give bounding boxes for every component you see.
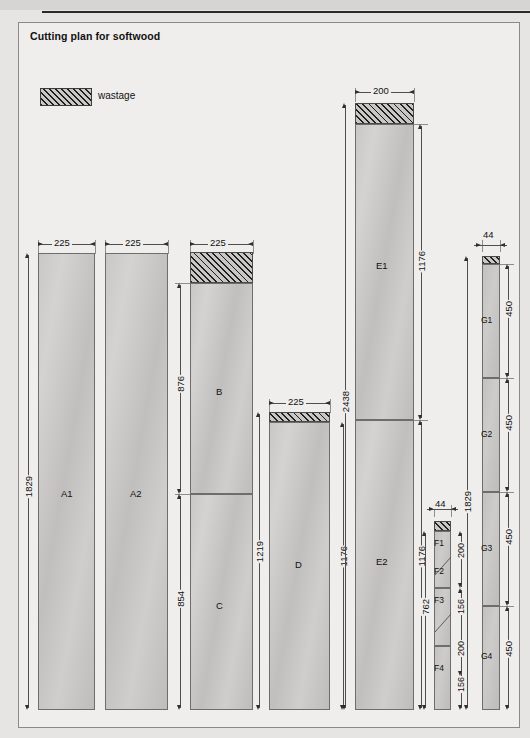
piece-f3-label: F3 xyxy=(434,595,444,605)
wastage-f xyxy=(434,521,451,531)
piece-g2-label: G2 xyxy=(481,429,492,439)
ext-d-right xyxy=(330,399,331,413)
dim-g1-line xyxy=(508,266,509,376)
piece-b-label: B xyxy=(216,386,222,397)
dim-d-1219-text: 1219 xyxy=(254,540,265,563)
dim-g2-text: 450 xyxy=(503,414,514,432)
dim-f-762-line xyxy=(425,533,426,708)
dim-f-width-text: 44 xyxy=(433,498,448,509)
dim-e-2438-text: 2438 xyxy=(340,390,351,413)
piece-f4-area xyxy=(434,646,451,710)
dim-g3-line xyxy=(508,494,509,604)
dim-g1-text: 450 xyxy=(503,300,514,318)
dim-e-width-text: 200 xyxy=(371,85,391,96)
dim-g3-text: 450 xyxy=(503,528,514,546)
page-top-band xyxy=(0,0,530,10)
legend-wastage-label: wastage xyxy=(98,90,135,101)
dim-f-762-text: 762 xyxy=(420,598,431,616)
piece-g4-label: G4 xyxy=(481,651,492,661)
dim-a2-width-text: 225 xyxy=(123,237,143,248)
ext-e-right xyxy=(414,88,415,102)
piece-f2-label: F2 xyxy=(434,566,444,576)
dim-a1-height-text: 1829 xyxy=(23,475,34,498)
piece-f-diagonals xyxy=(434,531,452,647)
piece-d-label: D xyxy=(295,559,302,570)
wastage-g xyxy=(482,256,500,264)
legend-wastage-swatch xyxy=(40,88,92,106)
piece-a1 xyxy=(38,253,95,710)
piece-f1-label: F1 xyxy=(434,538,444,548)
header-rule xyxy=(42,11,530,13)
dim-g-1829-line xyxy=(467,258,468,708)
piece-a2 xyxy=(105,253,168,710)
cutting-plan-page: Cutting plan for softwood wastage 225 A1… xyxy=(0,0,530,738)
piece-g3-label: G3 xyxy=(481,543,492,553)
piece-g1-label: G1 xyxy=(481,315,492,325)
dim-b-height-text: 876 xyxy=(175,375,186,393)
piece-e1-label: E1 xyxy=(376,260,388,271)
dim-f2-text: 156 xyxy=(456,598,466,615)
piece-c-label: C xyxy=(216,600,223,611)
dim-bc-width-text: 225 xyxy=(208,237,228,248)
piece-f4-label: F4 xyxy=(434,663,444,673)
wastage-bc xyxy=(190,252,253,283)
wastage-e xyxy=(355,103,414,124)
ext-g-left xyxy=(482,240,483,252)
ext-a1-right xyxy=(95,240,96,254)
dim-f1-text: 200 xyxy=(456,542,466,559)
dim-d-width-text: 225 xyxy=(286,396,306,407)
piece-a1-label: A1 xyxy=(61,488,73,499)
dim-f4-text: 156 xyxy=(456,676,466,693)
piece-e1 xyxy=(355,124,414,420)
dim-e1-height-text: 1176 xyxy=(416,250,427,272)
piece-e2-label: E2 xyxy=(376,556,388,567)
dim-f3-text: 200 xyxy=(456,640,466,657)
dim-d-1176-text: 1176 xyxy=(338,545,349,567)
dim-a1-width-text: 225 xyxy=(52,237,72,248)
ext-a2-right xyxy=(168,240,169,254)
dim-g2-line xyxy=(508,380,509,490)
piece-a2-label: A2 xyxy=(130,488,142,499)
dim-g4-text: 450 xyxy=(503,640,514,658)
ext-bc-right xyxy=(253,240,254,254)
dim-g4-line xyxy=(508,608,509,708)
page-title: Cutting plan for softwood xyxy=(30,30,160,42)
dim-c-height-text: 854 xyxy=(175,590,186,608)
dim-g-1829-text: 1829 xyxy=(462,490,473,513)
dim-g-width-text: 44 xyxy=(481,229,496,240)
wastage-d xyxy=(269,412,330,422)
